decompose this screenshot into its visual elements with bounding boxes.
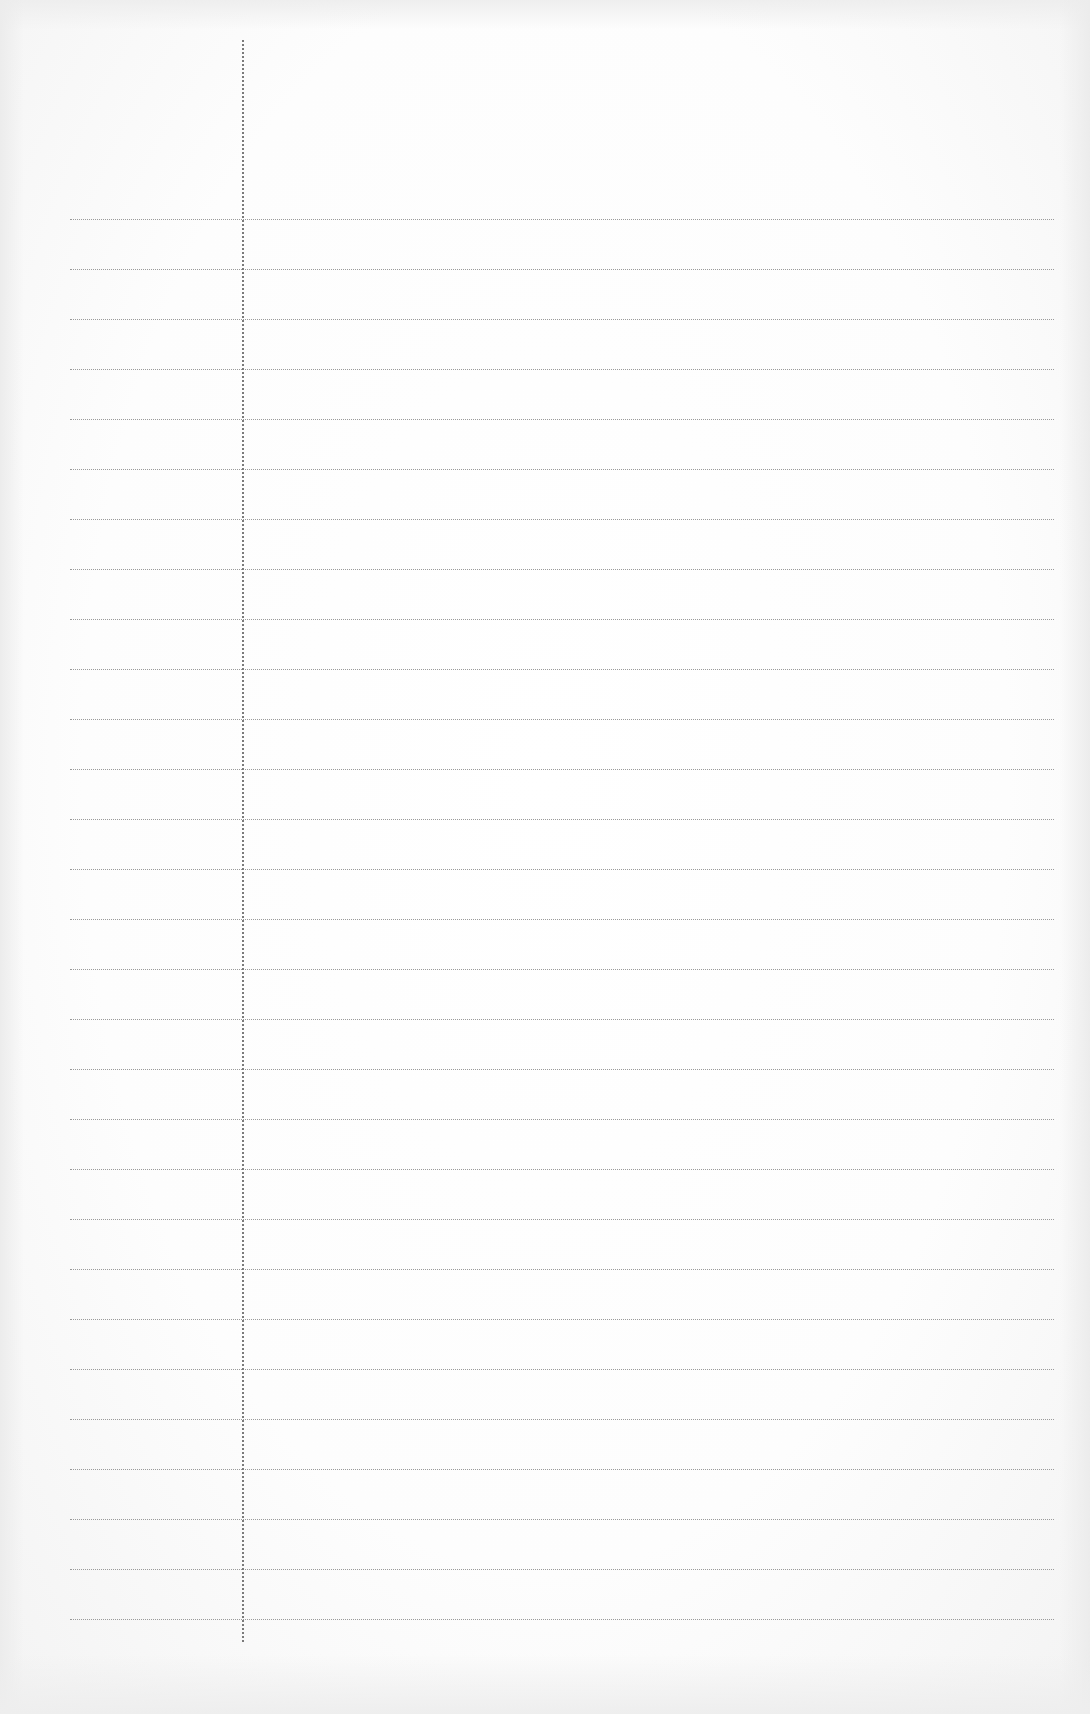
- ruled-line: [70, 1369, 1054, 1370]
- ruled-line: [70, 1119, 1054, 1120]
- ruled-line: [70, 769, 1054, 770]
- ruled-line: [70, 1269, 1054, 1270]
- margin-line: [242, 40, 244, 1642]
- ruled-line: [70, 269, 1054, 270]
- paper-shadow-right: [1060, 0, 1090, 1714]
- ruled-line: [70, 1569, 1054, 1570]
- ruled-line: [70, 1619, 1054, 1620]
- ruled-line: [70, 719, 1054, 720]
- notepaper-sheet: [0, 0, 1090, 1714]
- ruled-line: [70, 1319, 1054, 1320]
- ruled-line: [70, 319, 1054, 320]
- paper-shadow-left: [0, 0, 24, 1714]
- ruled-line: [70, 469, 1054, 470]
- ruled-line: [70, 869, 1054, 870]
- ruled-line: [70, 519, 1054, 520]
- ruled-line: [70, 669, 1054, 670]
- paper-shadow-top: [0, 0, 1090, 30]
- ruled-line: [70, 1019, 1054, 1020]
- ruled-line: [70, 969, 1054, 970]
- ruled-line: [70, 369, 1054, 370]
- ruled-line: [70, 1219, 1054, 1220]
- ruled-line: [70, 819, 1054, 820]
- ruled-line: [70, 1519, 1054, 1520]
- ruled-line: [70, 569, 1054, 570]
- ruled-line: [70, 619, 1054, 620]
- paper-shadow-bottom: [0, 1654, 1090, 1714]
- ruled-line: [70, 919, 1054, 920]
- ruled-line: [70, 1469, 1054, 1470]
- ruled-line: [70, 1069, 1054, 1070]
- ruled-line: [70, 419, 1054, 420]
- ruled-line: [70, 1169, 1054, 1170]
- ruled-line: [70, 219, 1054, 220]
- ruled-line: [70, 1419, 1054, 1420]
